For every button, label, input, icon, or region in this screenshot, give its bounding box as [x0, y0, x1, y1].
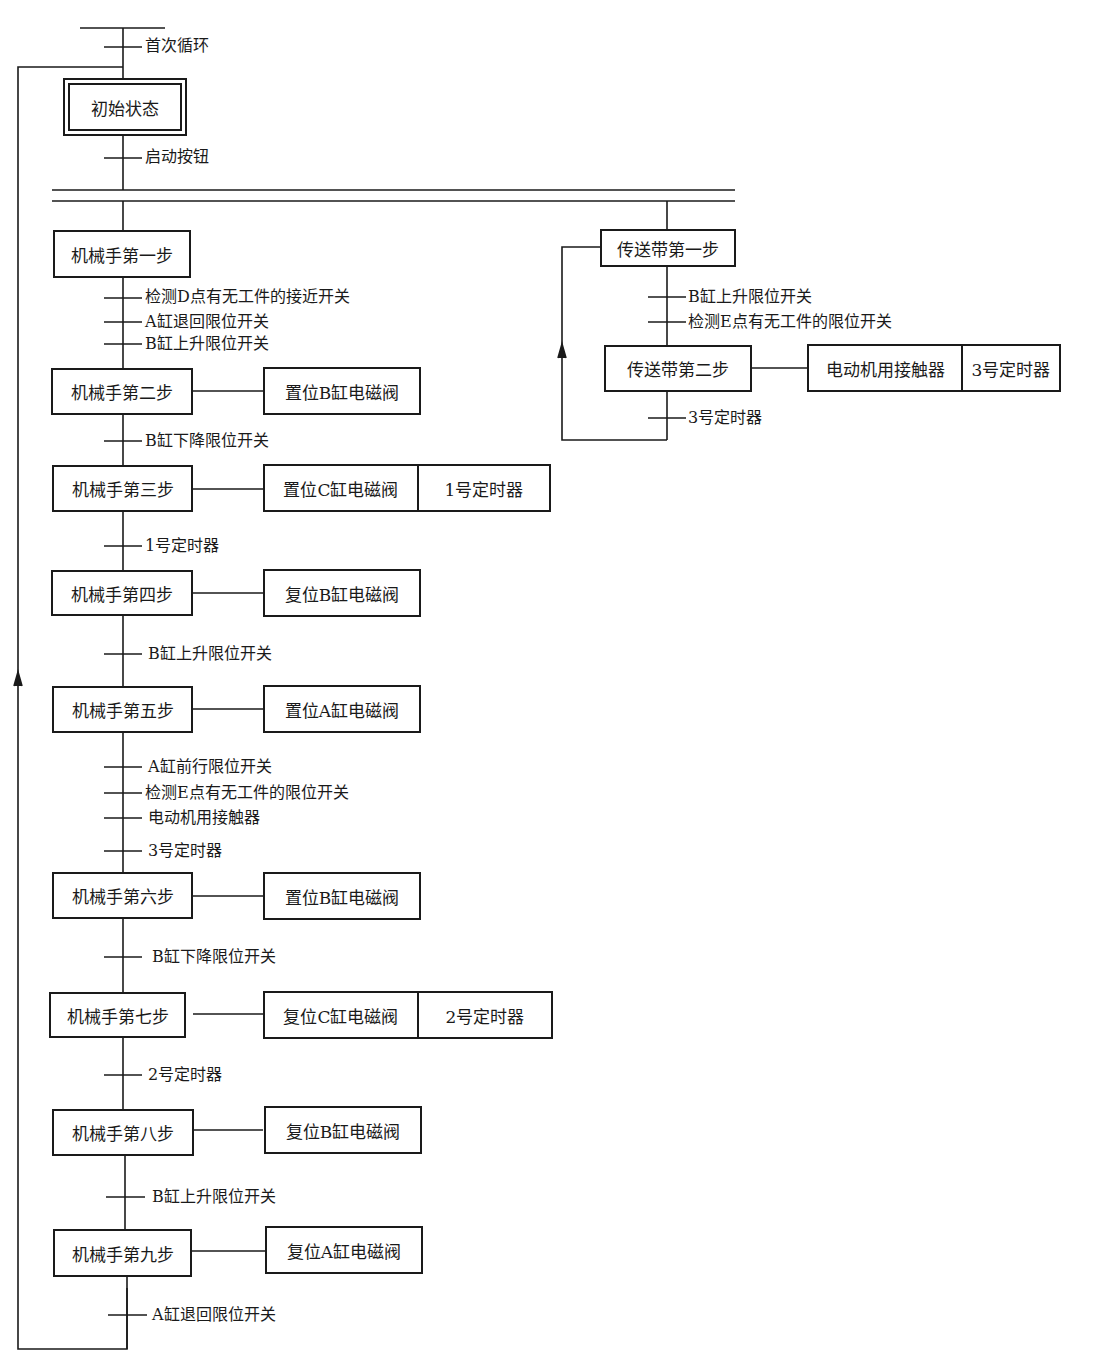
action-cell: 2号定时器 [417, 993, 551, 1037]
action-group: 置位B缸电磁阀 [263, 872, 421, 920]
step-manipulator-3: 机械手第三步 [52, 465, 193, 512]
transition-start-button: 启动按钮 [145, 148, 209, 166]
action-cell: 电动机用接触器 [809, 346, 961, 390]
action-cell: 复位A缸电磁阀 [267, 1228, 421, 1272]
transition-condition: A缸退回限位开关 [152, 1306, 276, 1324]
transition-condition: B缸上升限位开关 [688, 288, 812, 306]
action-group: 复位B缸电磁阀 [263, 569, 421, 617]
action-cell: 置位C缸电磁阀 [265, 466, 417, 510]
action-group: 复位C缸电磁阀 2号定时器 [263, 991, 553, 1039]
action-group: 复位A缸电磁阀 [265, 1226, 423, 1274]
step-manipulator-8: 机械手第八步 [52, 1109, 194, 1156]
transition-condition: 检测E点有无工件的限位开关 [688, 313, 892, 331]
transition-condition: B缸下降限位开关 [145, 432, 269, 450]
step-manipulator-9: 机械手第九步 [53, 1229, 192, 1277]
transition-condition: 检测D点有无工件的接近开关 [145, 288, 350, 306]
transition-condition: A缸前行限位开关 [148, 758, 272, 776]
sfc-diagram: 首次循环 初始状态 启动按钮 机械手第一步 检测D点有无工件的接近开关 A缸退回… [0, 0, 1097, 1371]
action-cell: 复位C缸电磁阀 [265, 993, 417, 1037]
step-conveyor-2: 传送带第二步 [604, 345, 752, 392]
action-cell: 复位B缸电磁阀 [266, 1108, 420, 1152]
step-manipulator-7: 机械手第七步 [49, 992, 186, 1038]
step-initial: 初始状态 [63, 78, 187, 136]
action-group: 置位C缸电磁阀 1号定时器 [263, 464, 551, 512]
action-group: 电动机用接触器 3号定时器 [807, 344, 1061, 392]
transition-condition: 检测E点有无工件的限位开关 [145, 784, 349, 802]
step-manipulator-1: 机械手第一步 [53, 230, 191, 278]
step-conveyor-1: 传送带第一步 [600, 229, 736, 267]
action-cell: 3号定时器 [961, 346, 1059, 390]
action-cell: 置位B缸电磁阀 [265, 874, 419, 918]
action-cell: 1号定时器 [417, 466, 549, 510]
transition-condition: 1号定时器 [145, 537, 219, 555]
action-cell: 复位B缸电磁阀 [265, 571, 419, 615]
step-manipulator-6: 机械手第六步 [52, 872, 193, 919]
step-manipulator-4: 机械手第四步 [51, 570, 193, 616]
action-group: 复位B缸电磁阀 [264, 1106, 422, 1154]
transition-condition: B缸上升限位开关 [152, 1188, 276, 1206]
transition-condition: A缸退回限位开关 [145, 313, 269, 331]
action-group: 置位A缸电磁阀 [263, 685, 421, 733]
transition-condition: B缸上升限位开关 [145, 335, 269, 353]
transition-condition: 3号定时器 [148, 842, 222, 860]
transition-first-cycle: 首次循环 [145, 37, 209, 55]
action-cell: 置位B缸电磁阀 [265, 369, 419, 413]
step-manipulator-2: 机械手第二步 [51, 368, 193, 415]
step-manipulator-5: 机械手第五步 [52, 686, 193, 733]
action-cell: 置位A缸电磁阀 [265, 687, 419, 731]
transition-condition: B缸下降限位开关 [152, 948, 276, 966]
action-group: 置位B缸电磁阀 [263, 367, 421, 415]
step-initial-label: 初始状态 [68, 83, 182, 131]
transition-condition: B缸上升限位开关 [148, 645, 272, 663]
transition-condition: 2号定时器 [148, 1066, 222, 1084]
transition-condition: 电动机用接触器 [148, 809, 260, 827]
transition-condition: 3号定时器 [688, 409, 762, 427]
